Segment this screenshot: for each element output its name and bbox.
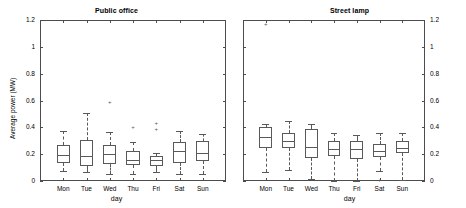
whisker-lower bbox=[402, 153, 403, 179]
whisker-lower bbox=[203, 161, 204, 174]
chart-panel-street-lamp: Street lamp day 00.20.40.60.811.2MonTueW… bbox=[233, 0, 466, 208]
box-quartiles bbox=[196, 141, 209, 160]
cap-lower bbox=[199, 174, 206, 175]
figure: Public office Average power (MW) day 00.… bbox=[0, 0, 466, 208]
whisker-upper bbox=[203, 134, 204, 141]
box-plot-group bbox=[233, 0, 466, 208]
cap-upper bbox=[199, 134, 206, 135]
box-plot-group bbox=[0, 0, 233, 208]
median-line bbox=[196, 153, 209, 154]
cap-lower bbox=[399, 180, 406, 181]
box-quartiles bbox=[396, 141, 409, 154]
cap-upper bbox=[399, 133, 406, 134]
whisker-upper bbox=[402, 133, 403, 141]
median-line bbox=[396, 148, 409, 149]
chart-panel-public-office: Public office Average power (MW) day 00.… bbox=[0, 0, 233, 208]
